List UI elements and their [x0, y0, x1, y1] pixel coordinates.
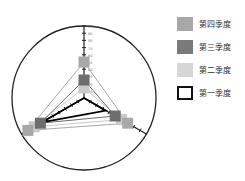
legend-item-q4: 第四季度 — [177, 13, 245, 34]
series-marker — [79, 75, 90, 86]
legend-label: 第三季度 — [199, 41, 231, 52]
legend-label: 第四季度 — [199, 18, 231, 29]
series-marker — [122, 118, 133, 129]
series-marker — [110, 111, 121, 122]
series-marker — [22, 125, 33, 136]
tick-label: 100 — [88, 25, 95, 29]
series-marker — [79, 57, 90, 68]
tick-label: 90 — [88, 32, 92, 36]
legend-swatch-q3 — [177, 40, 193, 54]
legend-swatch-q1 — [177, 86, 193, 100]
series-marker — [35, 118, 46, 129]
tick-label: 70 — [88, 47, 92, 51]
legend-swatch-q2 — [177, 63, 193, 77]
legend-item-q1: 第一季度 — [177, 82, 245, 103]
legend-label: 第二季度 — [199, 64, 231, 75]
legend-item-q3: 第三季度 — [177, 36, 245, 57]
legend-label: 第一季度 — [199, 87, 231, 98]
legend: 第四季度 第三季度 第二季度 第一季度 — [177, 13, 245, 105]
legend-item-q2: 第二季度 — [177, 59, 245, 80]
tick-label: 80 — [88, 39, 92, 43]
legend-swatch-q4 — [177, 17, 193, 31]
